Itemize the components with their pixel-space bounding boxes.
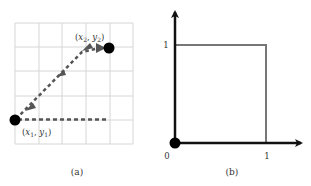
panel-b: 1 0 1 (b) [163,12,301,177]
origin-label: 0 [164,151,169,161]
panel-a: (x2, y2) (x1, y1) (a) [10,23,134,177]
caption-b: (b) [226,167,239,177]
point-start [10,115,21,126]
origin-point [170,138,181,149]
point-end [104,43,115,54]
grid [15,23,133,144]
caption-a: (a) [71,167,83,177]
point-end-label: (x2, y2) [75,32,104,43]
point-start-label: (x1, y1) [22,127,51,138]
y-tick-label: 1 [163,40,168,50]
diagram-canvas: (x2, y2) (x1, y1) (a) 1 0 1 (b) [0,0,311,186]
x-tick-label: 1 [264,151,269,161]
unit-square [175,45,266,143]
